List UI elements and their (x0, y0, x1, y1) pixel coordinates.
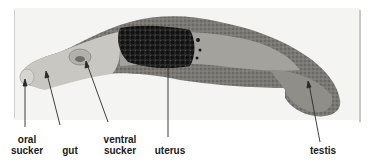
uterus-eggs (118, 26, 194, 68)
label-uterus: uterus (150, 145, 190, 156)
label-oral-sucker: oral sucker (10, 134, 44, 156)
label-gut: gut (58, 145, 82, 156)
label-testis: testis (305, 145, 341, 156)
fluke-illustration (0, 0, 377, 166)
oral-sucker-shape (20, 69, 34, 85)
label-ventral-sucker: ventral sucker (100, 134, 140, 156)
